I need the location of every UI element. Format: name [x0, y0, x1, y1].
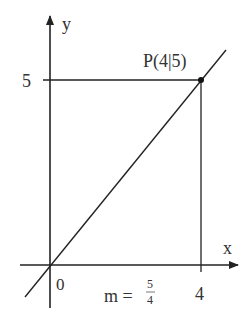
slope-numerator: 5 — [147, 277, 153, 291]
point-label: P(4|5) — [143, 51, 187, 72]
slope-diagram: y x 0 5 4 P(4|5) m = 5 4 — [0, 0, 249, 324]
y-axis-label: y — [62, 14, 71, 34]
x-axis-label: x — [223, 238, 232, 258]
function-line — [25, 50, 226, 297]
x-tick-label: 4 — [195, 284, 204, 304]
slope-prefix: m = — [104, 286, 133, 306]
y-tick-label: 5 — [22, 71, 31, 91]
slope-denominator: 4 — [147, 293, 153, 307]
origin-label: 0 — [56, 275, 65, 294]
point-p — [198, 77, 204, 83]
